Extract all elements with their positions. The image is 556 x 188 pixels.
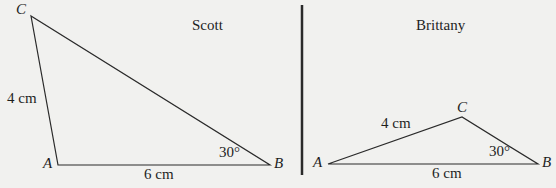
brittany-side-ac: 4 cm	[381, 116, 411, 131]
scott-vertex-a: A	[43, 156, 52, 171]
brittany-vertex-a: A	[313, 155, 322, 170]
scott-angle-b: 30°	[219, 145, 240, 160]
scott-vertex-c: C	[16, 2, 26, 17]
brittany-vertex-b: B	[542, 155, 551, 170]
scott-side-ab: 6 cm	[144, 167, 174, 182]
scott-vertex-b: B	[274, 156, 283, 171]
brittany-vertex-c: C	[457, 100, 467, 115]
brittany-side-ab: 6 cm	[432, 166, 462, 181]
scott-side-ac: 4 cm	[7, 91, 37, 106]
scott-triangle	[31, 16, 270, 165]
brittany-angle-b: 30°	[489, 144, 510, 159]
scott-title: Scott	[192, 18, 223, 33]
brittany-title: Brittany	[416, 18, 465, 33]
